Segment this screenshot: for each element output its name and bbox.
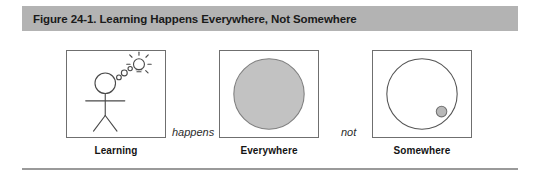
panel-learning: Learning	[66, 44, 168, 140]
connector-happens: happens	[172, 126, 214, 138]
panel-everywhere-box	[219, 50, 319, 138]
panel-learning-box	[66, 50, 166, 138]
panel-everywhere-label: Everywhere	[219, 145, 319, 156]
panel-somewhere-box	[372, 50, 472, 138]
panel-somewhere-label: Somewhere	[372, 145, 472, 156]
connector-not: not	[341, 126, 356, 138]
figure-caption-bar: Figure 24-1. Learning Happens Everywhere…	[22, 6, 518, 31]
panel-everywhere: Everywhere	[219, 44, 321, 140]
filled-circle-icon	[220, 51, 318, 137]
stick-figure-with-lightbulb-icon	[67, 51, 165, 137]
panel-learning-label: Learning	[66, 145, 166, 156]
figure-caption-text: Figure 24-1. Learning Happens Everywhere…	[22, 13, 357, 25]
figure-panels-row: Learning Everywhere Somewhere happens no…	[0, 44, 540, 144]
outline-circle-with-dot-icon	[373, 51, 471, 137]
figure-bottom-rule	[22, 168, 518, 170]
panel-somewhere: Somewhere	[372, 44, 474, 140]
